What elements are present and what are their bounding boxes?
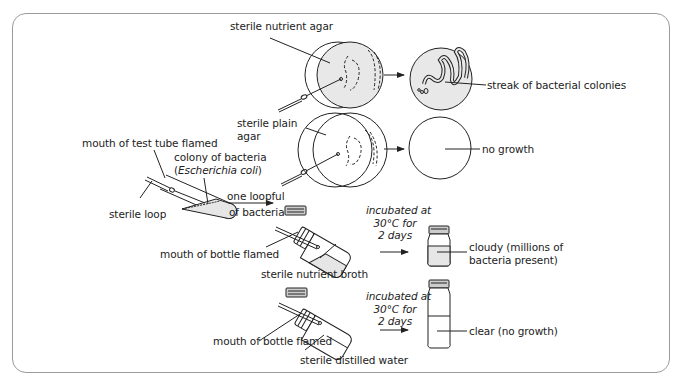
label-clear-no-growth: clear (no growth) [469,325,558,338]
label-sterile-distilled-water: sterile distilled water [300,354,408,367]
nutrient-agar-dish [270,38,383,112]
label-incubated-2: incubated at 30°C for 2 days [366,290,424,328]
cloudy-bottle [428,226,467,266]
label-sterile-plain-agar-line2: agar [237,130,260,143]
no-growth-dish [409,117,480,179]
experiment-diagram [0,0,680,381]
distilled-water-bottle [259,288,354,362]
label-no-growth: no growth [482,143,534,156]
label-mouth-bottle-flamed-2: mouth of bottle flamed [213,335,332,348]
label-sterile-nutrient-broth: sterile nutrient broth [261,268,368,281]
streak-result-dish [410,48,486,110]
label-one-loopful-line2: of bacteria [229,206,284,219]
label-sterile-nutrient-agar: sterile nutrient agar [230,20,333,33]
label-one-loopful-line1: one loopful [227,190,284,203]
label-escherichia-coli: (Escherichia coli) [174,164,262,177]
label-mouth-bottle-flamed-1: mouth of bottle flamed [160,248,279,261]
label-streak-colonies: streak of bacterial colonies [487,79,626,92]
label-cloudy-line1: cloudy (millions of [469,241,563,254]
label-mouth-test-tube-flamed: mouth of test tube flamed [82,137,218,150]
label-colony-of-bacteria: colony of bacteria [174,151,267,164]
label-sterile-plain-agar-line1: sterile plain [237,117,297,130]
label-sterile-loop: sterile loop [109,208,166,221]
label-incubated-1: incubated at 30°C for 2 days [366,204,424,242]
label-cloudy-line2: bacteria present) [469,254,558,267]
clear-bottle [428,280,467,348]
